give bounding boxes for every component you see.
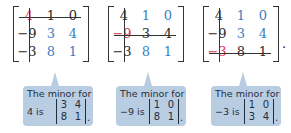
callout-lead: 4 is bbox=[27, 106, 44, 117]
column-strike bbox=[29, 8, 30, 62]
entry: 8 bbox=[231, 44, 251, 60]
minor-callout-3: The minor for −3 is 1 0 3 4 . bbox=[211, 86, 281, 126]
callout-period: . bbox=[87, 112, 90, 123]
entry: 3 bbox=[41, 26, 61, 42]
minor-entry: 1 bbox=[151, 99, 163, 111]
minor-entry: 8 bbox=[151, 111, 163, 123]
minors-figure: 4 1 0 −9 3 4 −3 8 1 4 1 0 −9 3 4 −3 8 1 … bbox=[0, 0, 291, 133]
matrix-1: 4 1 0 −9 3 4 −3 8 1 bbox=[13, 6, 89, 62]
right-bracket bbox=[273, 6, 279, 62]
minor-entry: 1 bbox=[165, 111, 177, 123]
entry: 1 bbox=[253, 44, 273, 60]
minor-entry: 1 bbox=[246, 99, 258, 111]
entry: −3 bbox=[112, 44, 132, 60]
callout-lead: −9 is bbox=[120, 106, 145, 117]
matrix-3: 4 1 0 −9 3 4 −3 8 1 bbox=[203, 6, 279, 62]
entry: 3 bbox=[231, 26, 251, 42]
callout-period: . bbox=[275, 112, 278, 123]
minor-determinant: 1 0 8 1 bbox=[149, 99, 179, 124]
entry: 1 bbox=[136, 8, 156, 24]
column-strike bbox=[219, 8, 220, 62]
right-bracket bbox=[178, 6, 184, 62]
minor-entry: 4 bbox=[260, 111, 272, 123]
trailing-period: . bbox=[282, 36, 286, 51]
callout-lead: −3 is bbox=[215, 106, 240, 117]
minor-determinant: 1 0 3 4 bbox=[244, 99, 274, 124]
callout-title: The minor for bbox=[215, 88, 279, 99]
minor-entry: 0 bbox=[260, 99, 272, 111]
minor-determinant: 3 4 8 1 bbox=[56, 99, 86, 124]
minor-entry: 4 bbox=[72, 99, 84, 111]
minor-callout-2: The minor for −9 is 1 0 8 1 . bbox=[116, 86, 186, 126]
entry: 0 bbox=[63, 8, 83, 24]
entry: 8 bbox=[41, 44, 61, 60]
minor-entry: 0 bbox=[165, 99, 177, 111]
matrix-2: 4 1 0 −9 3 4 −3 8 1 bbox=[108, 6, 184, 62]
entry: 0 bbox=[253, 8, 273, 24]
callout-title: The minor for bbox=[120, 88, 184, 99]
entry: 1 bbox=[63, 44, 83, 60]
minor-entry: 3 bbox=[58, 99, 70, 111]
entry: 8 bbox=[136, 44, 156, 60]
entry: 1 bbox=[231, 8, 251, 24]
minor-entry: 3 bbox=[246, 111, 258, 123]
entry: −9 bbox=[207, 26, 227, 42]
entry: 1 bbox=[158, 44, 178, 60]
entry: 4 bbox=[253, 26, 273, 42]
entry-highlighted: −9 bbox=[112, 26, 132, 42]
entry-highlighted: −3 bbox=[207, 44, 227, 60]
entry: 0 bbox=[158, 8, 178, 24]
minor-entry: 1 bbox=[72, 111, 84, 123]
right-bracket bbox=[83, 6, 89, 62]
column-strike bbox=[124, 8, 125, 62]
entry: 1 bbox=[41, 8, 61, 24]
entry: −9 bbox=[17, 26, 37, 42]
entry: 4 bbox=[63, 26, 83, 42]
entry: −3 bbox=[17, 44, 37, 60]
callout-period: . bbox=[180, 112, 183, 123]
callout-title: The minor for bbox=[27, 88, 91, 99]
entry: 3 bbox=[136, 26, 156, 42]
minor-callout-1: The minor for 4 is 3 4 8 1 . bbox=[23, 86, 93, 126]
minor-entry: 8 bbox=[58, 111, 70, 123]
entry: 4 bbox=[158, 26, 178, 42]
